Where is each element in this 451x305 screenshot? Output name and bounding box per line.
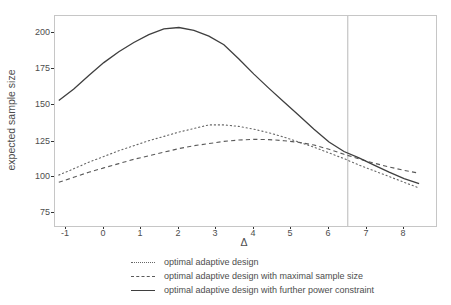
legend: optimal adaptive design optimal adaptive… [131, 255, 374, 297]
legend-item: optimal adaptive design with maximal sam… [131, 269, 374, 283]
legend-item: optimal adaptive design with further pow… [131, 283, 374, 297]
legend-label: optimal adaptive design with maximal sam… [164, 271, 363, 281]
dashed-line-swatch [131, 276, 155, 277]
x-tick-label: 8 [391, 229, 415, 238]
plot-svg [55, 16, 436, 226]
x-tick-label: 5 [278, 229, 302, 238]
x-tick-label: 3 [203, 229, 227, 238]
x-tick-label: 0 [91, 229, 115, 238]
curve-further-power-constraint [59, 28, 419, 184]
plot-panel [54, 15, 437, 227]
x-tick-label: 7 [354, 229, 378, 238]
solid-line-swatch [131, 290, 155, 291]
legend-label: optimal adaptive design [164, 257, 259, 267]
y-tick-label: 125 [20, 137, 50, 146]
chart-figure: expected sample size Δ 200 175 150 125 1… [0, 0, 451, 305]
y-tick-label: 175 [20, 64, 50, 73]
curve-optimal-adaptive-design [59, 125, 419, 188]
x-tick-label: 6 [316, 229, 340, 238]
x-tick-label: -1 [53, 229, 77, 238]
x-tick-label: 4 [241, 229, 265, 238]
legend-item: optimal adaptive design [131, 255, 374, 269]
y-axis-title: expected sample size [5, 70, 17, 171]
y-tick-label: 200 [20, 28, 50, 37]
x-tick-label: 2 [166, 229, 190, 238]
y-tick-label: 150 [20, 100, 50, 109]
y-tick-label: 100 [20, 172, 50, 181]
legend-label: optimal adaptive design with further pow… [164, 285, 374, 295]
dotted-line-swatch [131, 262, 155, 263]
y-tick-label: 75 [20, 208, 50, 217]
x-tick-label: 1 [128, 229, 152, 238]
